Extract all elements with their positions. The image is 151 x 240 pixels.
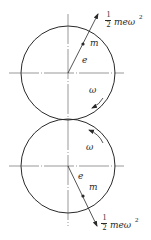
upper-mass-label: m — [90, 39, 99, 48]
lower-eccentricity-label: e — [78, 172, 83, 181]
lower-rotor — [9, 119, 124, 226]
upper-eccentricity-label: e — [82, 56, 87, 65]
lower-force-exponent: 2 — [135, 217, 139, 224]
upper-rotor — [9, 14, 124, 120]
lower-mass-label: m — [89, 183, 98, 192]
upper-force-numerator: 1 — [105, 11, 112, 19]
upper-force-exponent: 2 — [139, 14, 143, 21]
upper-mass-dot — [81, 42, 84, 45]
lower-force-numerator: 1 — [101, 214, 108, 222]
upper-force-denominator: 2 — [105, 21, 112, 29]
eccentric-rotors-diagram — [0, 0, 151, 240]
lower-force-denominator: 2 — [101, 224, 108, 232]
upper-force-body: meω — [114, 18, 135, 27]
lower-force-body: meω — [110, 221, 131, 230]
lower-omega-label: ω — [86, 143, 93, 152]
lower-mass-dot — [81, 194, 84, 197]
upper-omega-label: ω — [89, 86, 96, 95]
